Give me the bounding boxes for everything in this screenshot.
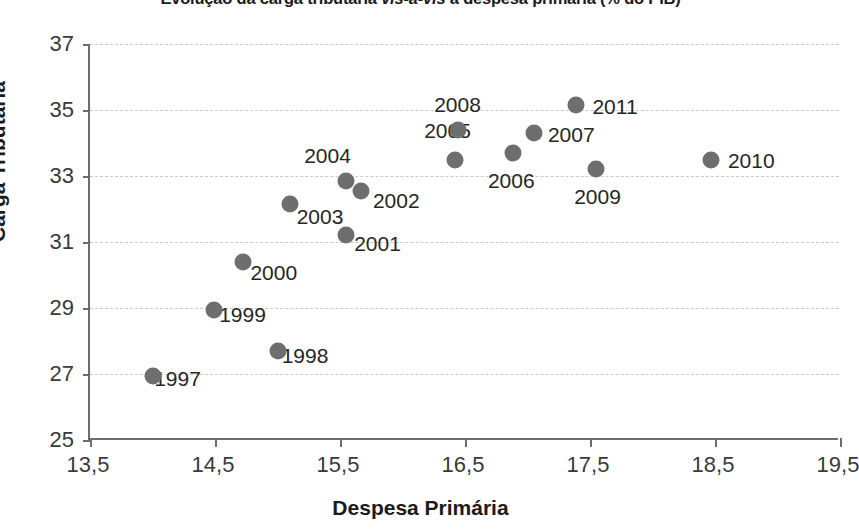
y-tick-mark-27: [83, 374, 90, 376]
point-label-1999: 1999: [219, 303, 266, 327]
y-tick-label-25: 25: [4, 427, 74, 453]
y-tick-label-29: 29: [4, 295, 74, 321]
y-tick-mark-31: [83, 242, 90, 244]
point-label-1997: 1997: [154, 367, 201, 391]
data-point-2000[interactable]: [234, 253, 251, 270]
x-tick-mark-18,5: [715, 438, 717, 447]
x-tick-mark-16,5: [465, 438, 467, 447]
gridline-y-27: [90, 374, 839, 375]
y-tick-label-33: 33: [4, 163, 74, 189]
data-point-2007[interactable]: [525, 125, 542, 142]
chart-title: Evolução da carga tributária vis-a-vis a…: [0, 0, 841, 8]
chart-title-part-2: a despesa primária (% do PIB): [445, 0, 680, 7]
y-tick-mark-29: [83, 308, 90, 310]
x-tick-label-17,5: 17,5: [567, 452, 610, 478]
x-tick-label-16,5: 16,5: [442, 452, 485, 478]
point-label-2011: 2011: [592, 95, 637, 119]
point-label-1998: 1998: [282, 344, 329, 368]
data-point-2002[interactable]: [353, 182, 370, 199]
y-tick-label-35: 35: [4, 97, 74, 123]
point-label-2000: 2000: [250, 261, 297, 285]
chart-title-italic: vis-a-vis: [381, 0, 445, 7]
data-point-2005[interactable]: [447, 151, 464, 168]
data-point-2006[interactable]: [504, 144, 521, 161]
x-tick-mark-19,5: [840, 438, 842, 447]
x-tick-label-15,5: 15,5: [317, 452, 360, 478]
y-tick-mark-37: [83, 44, 90, 46]
y-tick-mark-33: [83, 176, 90, 178]
point-label-2006: 2006: [488, 169, 535, 193]
y-tick-mark-35: [83, 110, 90, 112]
y-tick-mark-25: [83, 440, 90, 442]
y-tick-label-37: 37: [4, 31, 74, 57]
plot-area: 1997199819992000200120022003200420052006…: [88, 44, 838, 440]
point-label-2001: 2001: [354, 232, 401, 256]
x-tick-label-19,5: 19,5: [817, 452, 859, 478]
data-point-2003[interactable]: [282, 196, 299, 213]
x-tick-mark-14,5: [215, 438, 217, 447]
point-label-2010: 2010: [728, 149, 775, 173]
x-axis-title: Despesa Primária: [0, 496, 841, 520]
point-label-2002: 2002: [373, 189, 420, 213]
x-tick-label-13,5: 13,5: [67, 452, 110, 478]
x-tick-label-14,5: 14,5: [192, 452, 235, 478]
data-point-2011[interactable]: [568, 97, 585, 114]
y-tick-label-31: 31: [4, 229, 74, 255]
data-point-1999[interactable]: [205, 301, 222, 318]
data-point-2008[interactable]: [449, 121, 466, 138]
data-point-1997[interactable]: [144, 367, 161, 384]
point-label-2003: 2003: [297, 205, 344, 229]
gridline-y-29: [90, 308, 839, 309]
x-tick-mark-15,5: [340, 438, 342, 447]
gridline-y-33: [90, 176, 839, 177]
point-label-2004: 2004: [304, 144, 351, 168]
x-tick-mark-13,5: [90, 438, 92, 447]
y-tick-label-27: 27: [4, 361, 74, 387]
x-tick-label-18,5: 18,5: [692, 452, 735, 478]
point-label-2007: 2007: [548, 123, 595, 147]
gridline-y-31: [90, 242, 839, 243]
data-point-2010[interactable]: [703, 151, 720, 168]
data-point-2001[interactable]: [338, 227, 355, 244]
data-point-2009[interactable]: [588, 161, 605, 178]
chart-title-part-1: Evolução da carga tributária: [160, 0, 381, 7]
x-tick-mark-17,5: [590, 438, 592, 447]
data-point-2004[interactable]: [338, 172, 355, 189]
point-label-2009: 2009: [574, 185, 621, 209]
point-label-2008: 2008: [434, 93, 481, 117]
data-point-1998[interactable]: [269, 342, 286, 359]
gridline-y-37: [90, 44, 839, 45]
